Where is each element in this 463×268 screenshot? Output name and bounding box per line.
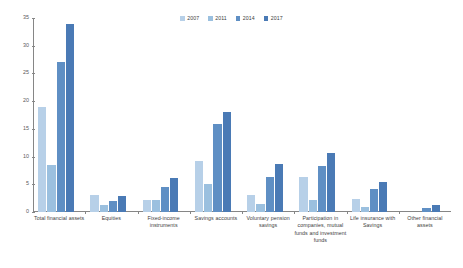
bar[interactable] (195, 161, 203, 212)
bar[interactable] (161, 187, 169, 212)
x-axis-category-label: Total financial assets (33, 215, 85, 222)
bar[interactable] (213, 124, 221, 212)
bar-group (299, 18, 335, 212)
y-axis-tick (32, 73, 35, 74)
bar-group (404, 18, 440, 212)
x-axis-category-label: Savings accounts (190, 215, 242, 222)
bar-group (352, 18, 388, 212)
y-axis-line (33, 18, 34, 212)
bar[interactable] (309, 200, 317, 212)
bar[interactable] (352, 199, 360, 212)
bar-group (90, 18, 126, 212)
bar-chart: 2007201120142017 05101520253035 Total fi… (0, 0, 463, 268)
x-axis-category-label: Equities (85, 215, 137, 222)
bar[interactable] (47, 165, 55, 212)
bar[interactable] (57, 62, 65, 212)
y-axis-tick-label: 0 (26, 209, 29, 214)
bar-group (38, 18, 74, 212)
bar[interactable] (247, 195, 255, 212)
y-axis-tick-label: 35 (23, 15, 29, 20)
bar[interactable] (170, 178, 178, 212)
bar[interactable] (66, 24, 74, 212)
x-axis-tick (85, 211, 86, 214)
bar[interactable] (327, 153, 335, 212)
x-axis-tick (138, 211, 139, 214)
x-axis-category-label: Fixed-income instruments (138, 215, 190, 230)
y-axis-tick-label: 25 (23, 71, 29, 76)
bar[interactable] (361, 207, 369, 212)
bar[interactable] (100, 205, 108, 212)
bar[interactable] (118, 196, 126, 212)
bar[interactable] (204, 184, 212, 212)
bar[interactable] (318, 166, 326, 212)
y-axis-tick (32, 157, 35, 158)
x-axis-tick (347, 211, 348, 214)
bar[interactable] (152, 200, 160, 212)
y-axis-tick-label: 5 (26, 182, 29, 187)
x-axis-tick (242, 211, 243, 214)
x-axis-category-label: Other financial assets (399, 215, 451, 230)
bar[interactable] (422, 208, 430, 212)
y-axis-tick (32, 46, 35, 47)
bar[interactable] (432, 205, 440, 212)
x-axis-tick (294, 211, 295, 214)
bar-group (195, 18, 231, 212)
y-axis-tick (32, 18, 35, 19)
bar[interactable] (299, 177, 307, 212)
bar[interactable] (370, 189, 378, 212)
bar[interactable] (90, 195, 98, 212)
y-axis-tick (32, 184, 35, 185)
y-axis-tick-label: 30 (23, 43, 29, 48)
bar[interactable] (143, 200, 151, 212)
x-axis-category-labels: Total financial assetsEquitiesFixed-inco… (33, 215, 451, 268)
x-axis-category-label: Life insurance with Savings (347, 215, 399, 230)
bar[interactable] (223, 112, 231, 212)
bar[interactable] (275, 164, 283, 212)
bar[interactable] (109, 201, 117, 212)
y-axis-tick-label: 15 (23, 126, 29, 131)
y-axis-tick (32, 101, 35, 102)
bar[interactable] (379, 182, 387, 212)
y-axis-tick (32, 212, 35, 213)
bar-group (247, 18, 283, 212)
y-axis-tick-label: 10 (23, 154, 29, 159)
x-axis-tick (399, 211, 400, 214)
bar-group (143, 18, 179, 212)
y-axis-tick-label: 20 (23, 98, 29, 103)
bar[interactable] (256, 204, 264, 212)
bar[interactable] (38, 107, 46, 212)
x-axis-category-label: Participation in companies, mutual funds… (294, 215, 346, 245)
plot-area: 05101520253035 (33, 18, 451, 212)
x-axis-tick (190, 211, 191, 214)
x-axis-category-label: Voluntary pension savings (242, 215, 294, 230)
y-axis-tick (32, 129, 35, 130)
bar[interactable] (266, 177, 274, 212)
